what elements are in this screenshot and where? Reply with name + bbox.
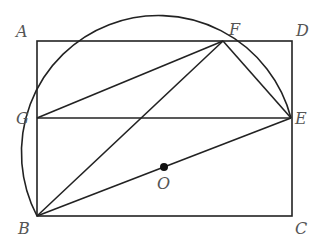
label-f: F <box>228 20 241 39</box>
label-a: A <box>14 22 28 41</box>
segment-bf <box>37 41 223 216</box>
label-c: C <box>295 219 307 238</box>
label-d: D <box>295 21 309 40</box>
segment-fe <box>223 41 291 118</box>
label-g: G <box>16 109 29 128</box>
geometry-diagram: A F D G E O B C <box>0 0 324 247</box>
label-e: E <box>294 109 307 128</box>
point-o-dot <box>160 163 168 171</box>
label-o: O <box>157 174 170 193</box>
label-b: B <box>17 219 30 238</box>
